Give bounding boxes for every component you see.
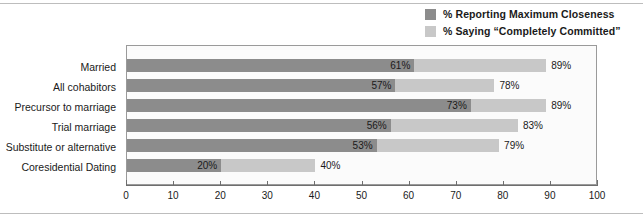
bar-value-label: 79%	[499, 139, 524, 152]
x-axis-tick-label: 0	[123, 190, 129, 201]
x-axis-tick	[409, 181, 410, 186]
legend-item: % Saying “Completely Committed”	[425, 25, 621, 38]
bar-closeness	[127, 99, 471, 112]
x-axis-tick-label: 20	[215, 190, 226, 201]
legend-label: % Saying “Completely Committed”	[443, 26, 621, 37]
x-axis-tick	[314, 181, 315, 186]
bar-value-label: 53%	[353, 139, 377, 152]
category-label: Trial marriage	[0, 117, 120, 137]
x-axis-tick-label: 50	[356, 190, 367, 201]
bar-closeness	[127, 139, 377, 152]
x-axis-tick	[597, 180, 598, 186]
x-axis-tick	[362, 181, 363, 186]
bar-value-label: 78%	[494, 79, 519, 92]
plot-area: 61%89%57%78%73%89%56%83%53%79%20%40%	[126, 45, 597, 185]
top-divider-rule	[0, 3, 643, 4]
bar-closeness	[127, 79, 395, 92]
legend-item: % Reporting Maximum Closeness	[425, 8, 621, 21]
bottom-divider-rule	[0, 213, 643, 214]
x-axis-tick-label: 80	[497, 190, 508, 201]
bar-value-label: 89%	[546, 59, 571, 72]
x-axis-tick-label: 30	[262, 190, 273, 201]
x-axis-tick-label: 100	[589, 190, 606, 201]
bar-row: 61%89%	[127, 57, 596, 77]
chart-legend: % Reporting Maximum Closeness% Saying “C…	[425, 8, 621, 38]
bar-value-label: 57%	[371, 79, 395, 92]
bar-row: 20%40%	[127, 157, 596, 177]
bar-value-label: 56%	[367, 119, 391, 132]
bar-chart-figure: % Reporting Maximum Closeness% Saying “C…	[0, 0, 643, 220]
category-label: Precursor to marriage	[0, 97, 120, 117]
x-axis-tick-label: 90	[544, 190, 555, 201]
legend-label: % Reporting Maximum Closeness	[443, 9, 615, 20]
category-label: Substitute or alternative	[0, 137, 120, 157]
bar-row: 57%78%	[127, 77, 596, 97]
bar-value-label: 61%	[390, 59, 414, 72]
x-axis: 0102030405060708090100	[126, 185, 597, 186]
bar-closeness	[127, 119, 391, 132]
bar-row: 53%79%	[127, 137, 596, 157]
x-axis-tick-label: 60	[403, 190, 414, 201]
bar-rows: 61%89%57%78%73%89%56%83%53%79%20%40%	[127, 57, 596, 177]
x-axis-tick-label: 10	[168, 190, 179, 201]
category-label: All cohabitors	[0, 77, 120, 97]
legend-swatch-icon	[425, 9, 436, 20]
bar-value-label: 89%	[546, 99, 571, 112]
bar-value-label: 83%	[518, 119, 543, 132]
x-axis-tick	[126, 180, 127, 186]
x-axis-tick-label: 70	[450, 190, 461, 201]
x-axis-tick	[503, 181, 504, 186]
bar-closeness	[127, 59, 414, 72]
x-axis-tick	[173, 181, 174, 186]
x-axis-tick-label: 40	[309, 190, 320, 201]
x-axis-tick	[220, 181, 221, 186]
bar-row: 73%89%	[127, 97, 596, 117]
bar-value-label: 20%	[197, 159, 221, 172]
x-axis-tick	[267, 181, 268, 186]
category-axis: MarriedAll cohabitorsPrecursor to marria…	[0, 57, 120, 177]
category-label: Coresidential Dating	[0, 157, 120, 177]
x-axis-tick	[550, 181, 551, 186]
bar-value-label: 73%	[447, 99, 471, 112]
bar-value-label: 40%	[315, 159, 340, 172]
category-label: Married	[0, 57, 120, 77]
x-axis-tick	[456, 181, 457, 186]
legend-swatch-icon	[425, 26, 436, 37]
bar-row: 56%83%	[127, 117, 596, 137]
